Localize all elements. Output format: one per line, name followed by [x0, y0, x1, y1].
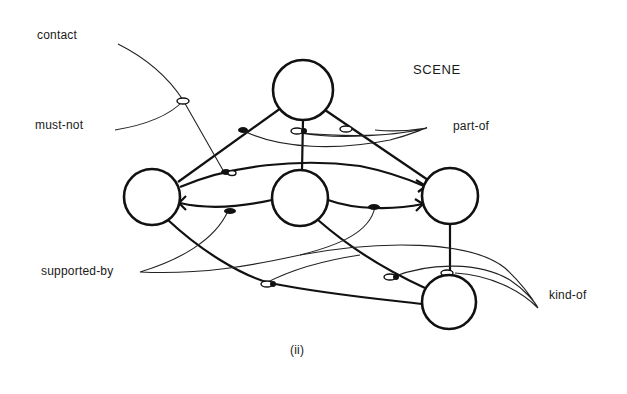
- node-middle: [272, 170, 328, 226]
- edge-left-bottom: [168, 220, 422, 304]
- must-not-link: [115, 101, 183, 130]
- kind-of-link: [300, 245, 538, 308]
- junction-marker: [228, 171, 236, 176]
- network-graph: [0, 0, 627, 394]
- junction-marker: [301, 128, 307, 134]
- semantic-network-diagram: contact must-not SCENE part-of supported…: [0, 0, 627, 394]
- node-bottom: [422, 275, 476, 329]
- label-kind-of: kind-of: [549, 288, 586, 302]
- label-part-of: part-of: [453, 119, 489, 133]
- junction-marker: [238, 127, 248, 133]
- junction-marker: [340, 126, 352, 132]
- junction-marker: [270, 281, 276, 287]
- edge-middle-left: [180, 200, 272, 207]
- node-left: [124, 169, 180, 225]
- part-of-link: [242, 128, 427, 147]
- diagram-title: SCENE: [413, 62, 461, 77]
- edge-middle-bottom: [318, 220, 425, 288]
- figure-caption: (ii): [290, 343, 304, 357]
- contact-link: [118, 44, 224, 172]
- label-contact: contact: [37, 28, 77, 42]
- supported-by-link: [140, 207, 375, 273]
- junction-marker: [368, 204, 380, 210]
- junction-marker: [393, 274, 399, 280]
- node-right: [422, 168, 478, 224]
- junction-marker: [224, 208, 236, 214]
- node-top: [273, 60, 333, 120]
- junction-marker: [177, 98, 189, 104]
- label-must-not: must-not: [35, 118, 83, 132]
- label-supported-by: supported-by: [41, 264, 113, 278]
